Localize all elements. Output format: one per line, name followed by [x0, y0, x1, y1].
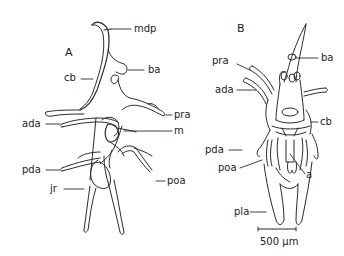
label-poa-b: poa — [218, 163, 237, 173]
anatomical-figure: A mdp cb ba pra ada m pda jr poa B ba pr… — [0, 0, 344, 256]
label-ada: ada — [22, 119, 41, 129]
label-ada-b: ada — [215, 85, 234, 95]
label-pla: pla — [234, 207, 249, 217]
label-ba-b: ba — [321, 53, 333, 63]
label-pra: pra — [174, 110, 191, 120]
label-cb: cb — [64, 73, 76, 83]
label-pra-b: pra — [212, 56, 229, 66]
label-pda: pda — [22, 165, 41, 175]
label-m: m — [174, 126, 184, 136]
scale-bar-label: 500 µm — [260, 237, 298, 247]
panel-b-drawing — [243, 24, 327, 225]
label-ba: ba — [148, 65, 160, 75]
label-poa: poa — [167, 176, 186, 186]
label-pda-b: pda — [205, 145, 224, 155]
label-a: a — [306, 170, 312, 180]
label-cb-b: cb — [320, 117, 332, 127]
panel-a-drawing — [45, 22, 164, 234]
figure-drawing — [0, 0, 344, 256]
label-jr: jr — [50, 184, 57, 194]
label-mdp: mdp — [134, 24, 156, 34]
panel-label-a: A — [65, 46, 73, 59]
panel-label-b: B — [237, 22, 245, 35]
